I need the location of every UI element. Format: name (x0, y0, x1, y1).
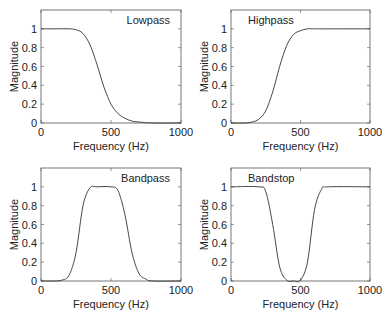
x-axis-label: Frequency (Hz) (263, 140, 339, 152)
y-tick-label: 0.2 (22, 256, 37, 268)
y-tick-label: 0.8 (22, 200, 37, 212)
y-tick-label: 0.6 (22, 219, 37, 231)
x-tick-label: 1000 (358, 126, 382, 138)
x-axis-label: Frequency (Hz) (73, 140, 149, 152)
y-tick-label: 0.4 (212, 237, 227, 249)
y-tick-label: 0.8 (22, 42, 37, 54)
y-tick-label: 1 (31, 23, 37, 35)
y-tick-label: 1 (31, 181, 37, 193)
y-tick-label: 0.6 (212, 61, 227, 73)
y-tick-label: 0 (221, 117, 227, 129)
y-tick-label: 0.8 (212, 200, 227, 212)
y-tick-label: 0.6 (22, 61, 37, 73)
axes-box (41, 10, 181, 123)
x-axis-label: Frequency (Hz) (73, 298, 149, 310)
x-tick-label: 0 (228, 284, 234, 296)
y-tick-label: 0.8 (212, 42, 227, 54)
y-axis-label: Magnitude (8, 41, 20, 92)
y-tick-label: 0.4 (22, 79, 37, 91)
bandpass-panel: 00.20.40.60.8105001000Frequency (Hz)Magn… (0, 157, 194, 314)
y-tick-label: 0 (31, 275, 37, 287)
y-tick-label: 0.4 (22, 237, 37, 249)
x-tick-label: 500 (102, 284, 120, 296)
y-tick-label: 0.2 (22, 98, 37, 110)
axes-box (231, 168, 370, 281)
x-tick-label: 500 (291, 284, 309, 296)
chart-title: Bandpass (121, 172, 170, 184)
y-tick-label: 0.2 (212, 256, 227, 268)
x-axis-label: Frequency (Hz) (263, 298, 339, 310)
x-tick-label: 1000 (358, 284, 382, 296)
bandpass-chart: 00.20.40.60.8105001000Frequency (Hz)Magn… (0, 157, 194, 314)
x-tick-label: 0 (38, 284, 44, 296)
y-tick-label: 0 (221, 275, 227, 287)
y-tick-label: 0.6 (212, 219, 227, 231)
bandstop-panel: 00.20.40.60.8105001000Frequency (Hz)Magn… (190, 157, 384, 314)
y-tick-label: 0.2 (212, 98, 227, 110)
x-tick-label: 0 (228, 126, 234, 138)
bandstop-chart: 00.20.40.60.8105001000Frequency (Hz)Magn… (190, 157, 384, 314)
highpass-panel: 00.20.40.60.8105001000Frequency (Hz)Magn… (190, 0, 384, 157)
chart-title: Highpass (248, 14, 294, 26)
y-axis-label: Magnitude (198, 41, 210, 92)
y-axis-label: Magnitude (8, 199, 20, 250)
chart-title: Lowpass (127, 14, 171, 26)
y-tick-label: 1 (221, 181, 227, 193)
highpass-chart: 00.20.40.60.8105001000Frequency (Hz)Magn… (190, 0, 384, 157)
x-tick-label: 500 (291, 126, 309, 138)
y-axis-label: Magnitude (198, 199, 210, 250)
axes-box (231, 10, 370, 123)
y-tick-label: 0.4 (212, 79, 227, 91)
lowpass-chart: 00.20.40.60.8105001000Frequency (Hz)Magn… (0, 0, 194, 157)
chart-title: Bandstop (248, 172, 294, 184)
y-tick-label: 1 (221, 23, 227, 35)
x-tick-label: 0 (38, 126, 44, 138)
lowpass-panel: 00.20.40.60.8105001000Frequency (Hz)Magn… (0, 0, 194, 157)
x-tick-label: 500 (102, 126, 120, 138)
y-tick-label: 0 (31, 117, 37, 129)
axes-box (41, 168, 181, 281)
